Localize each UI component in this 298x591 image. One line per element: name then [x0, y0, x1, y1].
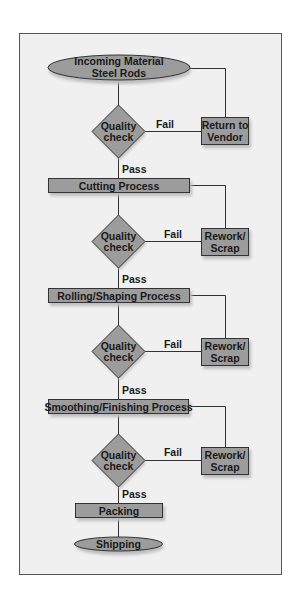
rework-scrap-3: Rework/ Scrap — [202, 448, 252, 479]
quality-check-3-line2: check — [104, 351, 134, 363]
process-packing: Packing — [76, 504, 166, 522]
end-label: Shipping — [96, 538, 141, 550]
process-rolling-shaping: Rolling/Shaping Process — [49, 289, 193, 307]
rework-2-line2: Scrap — [210, 352, 239, 364]
quality-check-4-line2: check — [104, 460, 134, 472]
rework-3-line2: Scrap — [210, 461, 239, 473]
flowchart: Incoming Material Steel Rods Return to V… — [0, 0, 298, 591]
quality-check-2-line2: check — [104, 241, 134, 253]
rework-scrap-1: Rework/ Scrap — [202, 229, 252, 260]
start-terminal: Incoming Material Steel Rods — [48, 55, 191, 84]
return-label-line2: Vendor — [207, 131, 243, 143]
process-smoothing-label: Smoothing/Finishing Process — [44, 401, 192, 413]
return-to-vendor-box: Return to Vendor — [202, 118, 252, 149]
rework-scrap-2: Rework/ Scrap — [202, 339, 252, 370]
rework-1-line1: Rework/ — [205, 230, 246, 242]
start-label-line2: Steel Rods — [92, 67, 146, 79]
process-smoothing-finishing: Smoothing/Finishing Process — [44, 400, 192, 418]
return-label-line1: Return to — [202, 119, 249, 131]
pass-label-2: Pass — [122, 273, 147, 285]
rework-3-line1: Rework/ — [205, 449, 246, 461]
pass-label-1: Pass — [122, 163, 147, 175]
process-rolling-label: Rolling/Shaping Process — [57, 290, 181, 302]
fail-label-1: Fail — [156, 118, 174, 130]
rework-2-line1: Rework/ — [205, 340, 246, 352]
process-cutting-label: Cutting Process — [79, 180, 160, 192]
quality-check-1-line2: check — [104, 131, 134, 143]
start-label-line1: Incoming Material — [74, 55, 163, 67]
rework-1-line2: Scrap — [210, 242, 239, 254]
fail-label-4: Fail — [164, 446, 182, 458]
end-terminal: Shipping — [75, 537, 165, 555]
fail-label-3: Fail — [164, 338, 182, 350]
process-cutting: Cutting Process — [49, 179, 193, 197]
fail-label-2: Fail — [164, 228, 182, 240]
pass-label-3: Pass — [122, 384, 147, 396]
pass-label-4: Pass — [122, 488, 147, 500]
process-packing-label: Packing — [99, 505, 139, 517]
